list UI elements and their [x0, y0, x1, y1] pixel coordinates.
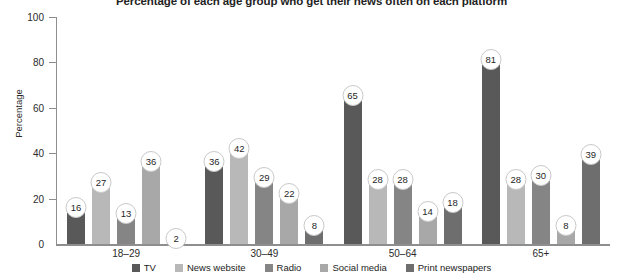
bar-value-label: 14 — [417, 201, 438, 222]
legend-item[interactable]: TV — [132, 262, 156, 273]
bar-value-label: 2 — [166, 228, 187, 249]
x-axis-group-label: 50–64 — [389, 248, 417, 259]
y-axis-tick-label: 100 — [18, 12, 44, 23]
bar-value-label: 36 — [141, 151, 162, 172]
bar-value-label: 8 — [555, 215, 576, 236]
chart-legend: TVNews websiteRadioSocial mediaPrint new… — [0, 262, 623, 273]
bar-value-label: 42 — [229, 138, 250, 159]
bar-chart: Percentage of each age group who get the… — [0, 0, 623, 280]
bar-value-label: 22 — [279, 183, 300, 204]
bar-value-label: 36 — [204, 151, 225, 172]
bar-value-label: 18 — [442, 192, 463, 213]
legend-swatch-icon — [320, 264, 328, 272]
bar-value-label: 39 — [580, 144, 601, 165]
bar-value-label: 29 — [254, 167, 275, 188]
y-axis-tick-label: 60 — [18, 102, 44, 113]
y-axis-tick-mark — [49, 153, 56, 154]
x-axis-group-label: 30–49 — [250, 248, 278, 259]
legend-item-label: Radio — [277, 262, 302, 273]
bar — [582, 155, 600, 244]
x-axis-group-label: 18–29 — [112, 248, 140, 259]
bar — [205, 162, 223, 244]
bar — [142, 162, 160, 244]
bar — [230, 149, 248, 244]
bar-value-label: 13 — [116, 203, 137, 224]
y-axis-tick-label: 0 — [18, 239, 44, 250]
bar — [532, 176, 550, 244]
bar — [482, 60, 500, 244]
bar-value-label: 27 — [91, 172, 112, 193]
y-axis-tick-label: 40 — [18, 148, 44, 159]
legend-swatch-icon — [175, 264, 183, 272]
legend-item[interactable]: Social media — [320, 262, 386, 273]
bar — [344, 96, 362, 244]
legend-item[interactable]: Radio — [265, 262, 302, 273]
page-title: Percentage of each age group who get the… — [0, 0, 623, 7]
bar-value-label: 8 — [304, 215, 325, 236]
y-axis-tick-mark — [49, 108, 56, 109]
legend-swatch-icon — [406, 264, 414, 272]
legend-item-label: News website — [187, 262, 246, 273]
legend-item-label: Social media — [332, 262, 386, 273]
bar-value-label: 28 — [505, 169, 526, 190]
y-axis-tick-mark — [49, 17, 56, 18]
y-axis-tick-label: 80 — [18, 57, 44, 68]
bar-value-label: 16 — [66, 197, 87, 218]
legend-item[interactable]: Print newspapers — [406, 262, 491, 273]
y-axis-tick-mark — [49, 62, 56, 63]
bar-value-label: 28 — [367, 169, 388, 190]
y-axis-tick-labels: 020406080100 — [0, 0, 44, 280]
y-axis-tick-mark — [49, 199, 56, 200]
bar-value-label: 30 — [530, 165, 551, 186]
plot-area: 1627133623642292286528281418812830839 — [57, 17, 610, 244]
bar-value-label: 28 — [392, 169, 413, 190]
legend-swatch-icon — [132, 264, 140, 272]
legend-swatch-icon — [265, 264, 273, 272]
legend-item-label: Print newspapers — [418, 262, 491, 273]
legend-item[interactable]: News website — [175, 262, 246, 273]
x-axis-group-label: 65+ — [532, 248, 549, 259]
bar-value-label: 81 — [480, 49, 501, 70]
bar-value-label: 65 — [342, 85, 363, 106]
x-axis-line — [56, 244, 610, 246]
y-axis-tick-label: 20 — [18, 193, 44, 204]
legend-item-label: TV — [144, 262, 156, 273]
